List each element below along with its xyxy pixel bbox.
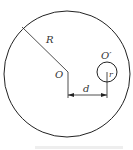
caption-placeholder xyxy=(35,146,123,149)
arrow-right-icon xyxy=(101,93,107,97)
label-r: r xyxy=(109,70,114,79)
arrow-left-icon xyxy=(68,93,74,97)
label-O: O xyxy=(55,69,63,80)
circle-diagram: R O O′ r d xyxy=(0,0,133,150)
radius-R-line xyxy=(22,27,68,72)
label-O-prime: O′ xyxy=(101,50,112,61)
label-R: R xyxy=(45,34,54,45)
label-d: d xyxy=(83,83,89,94)
